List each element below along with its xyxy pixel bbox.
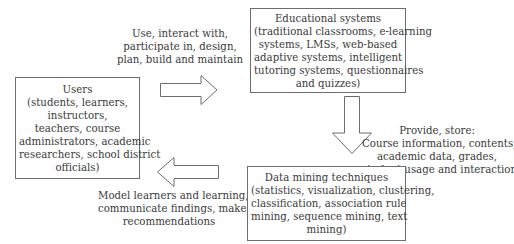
data-mining-node-line: mining) [251,223,402,236]
data-mining-node-line: classification, association rule [251,197,402,210]
data-mining-node-line: mining, sequence mining, text [251,210,402,223]
data-mining-node: Data mining techniques (statistics, visu… [247,166,406,241]
educational-systems-node-line: and quizzes) [254,77,402,90]
users-node-line: researchers, school district [19,148,136,161]
edge-label-line: Course information, contents, [362,137,512,150]
users-node-line: instructors, [19,109,136,122]
users-node: Users (students, learners, instructors, … [15,77,140,179]
right-arrow-icon [160,75,218,105]
mining-to-users-label: Model learners and learning, communicate… [98,189,240,228]
edge-label-line: communicate findings, make [98,202,240,215]
edge-label-line: recommendations [98,215,240,228]
educational-systems-node-line: systems, LMSs, web-based [254,38,402,51]
users-node-title: Users [19,83,136,96]
users-node-line: officials) [19,161,136,174]
educational-systems-node-title: Educational systems [254,12,402,25]
edge-label-line: academic data, grades, [362,150,512,163]
edge-label-line: participate in, design, [110,40,250,53]
edge-label-line: Use, interact with, [110,27,250,40]
educational-systems-node-line: (traditional classrooms, e-learning [254,25,402,38]
edge-label-line: Model learners and learning, [98,189,240,202]
educational-systems-node-line: adaptive systems, intelligent [254,51,402,64]
left-arrow-icon [157,157,219,187]
educational-systems-node: Educational systems (traditional classro… [250,8,406,93]
users-node-line: administrators, academic [19,135,136,148]
edge-label-line: Provide, store: [362,124,512,137]
users-node-line: (students, learners, [19,96,136,109]
edge-label-line: plan, build and maintain [110,53,250,66]
data-mining-node-title: Data mining techniques [251,171,402,184]
data-mining-node-line: (statistics, visualization, clustering, [251,184,402,197]
educational-systems-node-line: tutoring systems, questionnaires [254,64,402,77]
users-node-line: teachers, course [19,122,136,135]
users-to-systems-label: Use, interact with, participate in, desi… [110,27,250,66]
